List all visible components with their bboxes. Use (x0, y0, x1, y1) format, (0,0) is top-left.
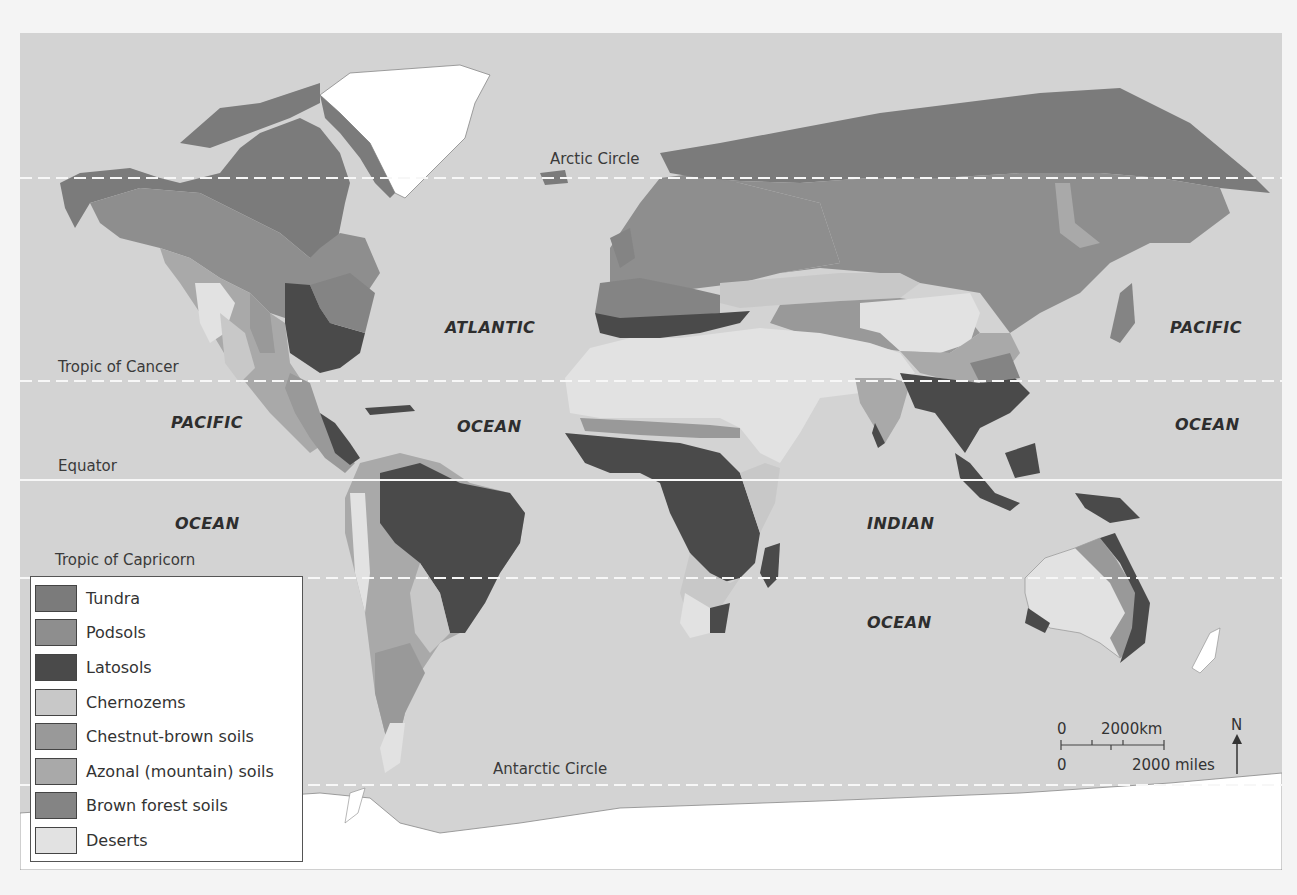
legend-label: Chernozems (86, 693, 186, 712)
legend-item-deserts: Deserts (35, 823, 298, 858)
north-arrow-icon (1230, 734, 1244, 776)
arctic-circle-label: Arctic Circle (550, 150, 640, 168)
pacific-east-ocean-label: OCEAN (1175, 415, 1240, 434)
legend-label: Podsols (86, 623, 146, 642)
tropic-of-cancer-label: Tropic of Cancer (58, 358, 179, 376)
legend-item-brown-forest: Brown forest soils (35, 789, 298, 824)
chestnut-brown-swatch (35, 723, 77, 750)
africa-latosols (565, 433, 760, 583)
pacific-east-label: PACIFIC (1170, 318, 1242, 337)
tropic-of-capricorn-label: Tropic of Capricorn (55, 551, 195, 569)
scale-km-label: 2000km (1101, 720, 1162, 738)
scale-miles-label: 2000 miles (1132, 756, 1215, 774)
scale-bar: 0 2000km 0 2000 miles N (1045, 720, 1245, 780)
scale-ruler (1045, 738, 1245, 754)
legend-item-podsols: Podsols (35, 616, 298, 651)
scale-km-zero: 0 (1057, 720, 1067, 738)
legend-label: Deserts (86, 831, 148, 850)
legend-label: Chestnut-brown soils (86, 727, 254, 746)
atlantic-label: ATLANTIC (445, 318, 535, 337)
north-label: N (1231, 716, 1242, 734)
latosols-swatch (35, 654, 77, 681)
legend-label: Latosols (86, 658, 152, 677)
antarctic-circle-label: Antarctic Circle (493, 760, 607, 778)
scale-miles-zero: 0 (1057, 756, 1067, 774)
equator-label: Equator (58, 457, 117, 475)
se-asia-latosols (900, 373, 1030, 453)
atlantic-ocean-label: OCEAN (457, 417, 522, 436)
indian-ocean-label: OCEAN (867, 613, 932, 632)
indian-label: INDIAN (867, 514, 934, 533)
legend-item-latosols: Latosols (35, 650, 298, 685)
azonal-swatch (35, 758, 77, 785)
legend-label: Azonal (mountain) soils (86, 762, 274, 781)
deserts-swatch (35, 827, 77, 854)
legend-label: Brown forest soils (86, 796, 228, 815)
pacific-west-ocean-label: OCEAN (175, 514, 240, 533)
india (855, 378, 910, 443)
legend-item-azonal: Azonal (mountain) soils (35, 754, 298, 789)
podsols-swatch (35, 619, 77, 646)
legend: Tundra Podsols Latosols Chernozems Chest… (30, 576, 303, 862)
legend-item-chestnut-brown: Chestnut-brown soils (35, 719, 298, 754)
pacific-west-label: PACIFIC (171, 413, 243, 432)
chernozems-swatch (35, 689, 77, 716)
tundra-swatch (35, 585, 77, 612)
legend-label: Tundra (86, 589, 140, 608)
legend-item-chernozems: Chernozems (35, 685, 298, 720)
brown-forest-swatch (35, 792, 77, 819)
legend-item-tundra: Tundra (35, 581, 298, 616)
